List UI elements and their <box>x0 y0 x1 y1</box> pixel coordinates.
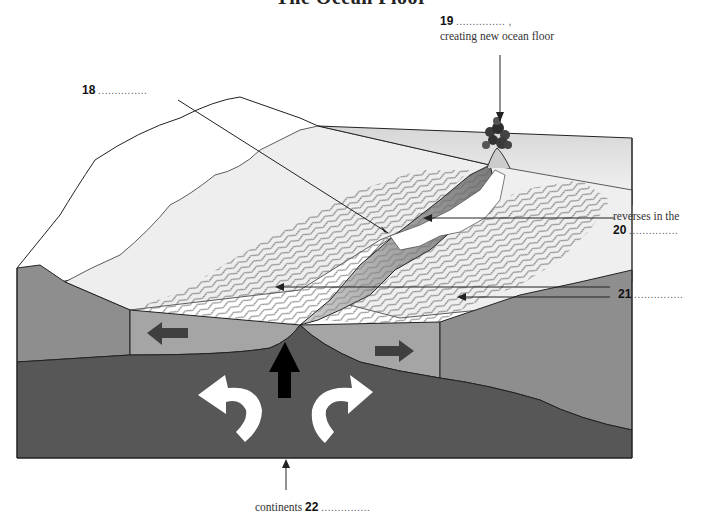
label-19-number: 19 <box>440 14 453 28</box>
label-18-number: 18 <box>82 83 95 97</box>
label-22-number: 22 <box>305 500 318 514</box>
label-18: 18 ............... <box>82 83 147 98</box>
label-22: continents 22 ............... <box>255 500 370 515</box>
label-20: reverses in the 20 ............... <box>613 209 679 238</box>
label-21-blank: ............... <box>634 289 683 300</box>
label-22-prefix: continents <box>255 501 302 513</box>
label-20-prefix: reverses in the <box>613 209 679 223</box>
label-21-number: 21 <box>618 287 631 301</box>
diagram-title: The Ocean Floor <box>0 0 703 9</box>
label-21: 21 ............... <box>618 287 683 302</box>
label-20-blank: ............... <box>629 225 678 236</box>
label-18-blank: ............... <box>98 85 147 96</box>
label-22-blank: ............... <box>321 502 370 513</box>
label-19-text: creating new ocean floor <box>440 29 554 43</box>
label-19-blank: ............... , <box>456 16 512 27</box>
label-19: 19 ............... , creating new ocean … <box>440 14 554 43</box>
ocean-floor-diagram <box>0 0 703 527</box>
label-20-number: 20 <box>613 223 626 237</box>
